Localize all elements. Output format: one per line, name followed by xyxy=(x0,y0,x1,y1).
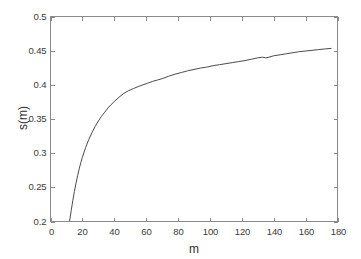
x-tick-label: 180 xyxy=(319,226,359,237)
y-tick-label: 0.25 xyxy=(3,181,47,192)
y-tick-label: 0.3 xyxy=(3,147,47,158)
y-tick-label: 0.5 xyxy=(3,11,47,22)
chart-figure: s(m) m 0.20.250.30.350.40.450.5 02040608… xyxy=(0,0,361,259)
x-axis-label: m xyxy=(164,242,224,256)
y-tick-label: 0.35 xyxy=(3,113,47,124)
y-tick-label: 0.45 xyxy=(3,45,47,56)
y-tick-label: 0.4 xyxy=(3,79,47,90)
plot-canvas xyxy=(0,0,361,259)
